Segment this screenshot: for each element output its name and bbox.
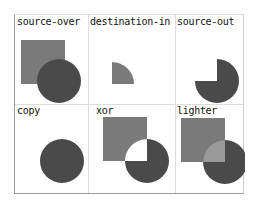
copy-drawing <box>15 104 88 194</box>
cell-source-out: source-out <box>175 15 245 104</box>
cell-xor: xor <box>88 104 175 194</box>
xor-drawing <box>88 104 175 194</box>
composite-grid: source-over destination-in source-out co… <box>14 14 244 194</box>
cell-lighter: lighter <box>175 104 245 194</box>
cell-source-over: source-over <box>15 15 88 104</box>
cell-destination-in: destination-in <box>88 15 175 104</box>
source-over-drawing <box>15 15 88 104</box>
source-out-drawing <box>175 15 245 104</box>
destination-in-drawing <box>88 15 175 104</box>
lighter-drawing <box>175 104 245 194</box>
cell-copy: copy <box>15 104 88 194</box>
